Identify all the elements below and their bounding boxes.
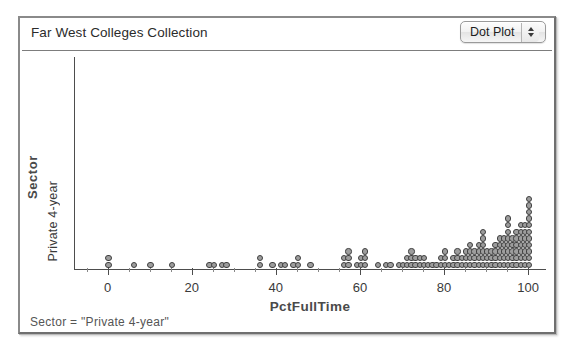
filter-status-text: Sector = "Private 4-year" <box>30 315 169 329</box>
data-point[interactable] <box>526 202 532 208</box>
x-axis-minor-tick <box>318 268 319 272</box>
data-point[interactable] <box>505 215 511 221</box>
x-axis-major-tick <box>192 268 193 275</box>
plot-area[interactable] <box>74 57 546 270</box>
x-axis-minor-tick <box>150 268 151 272</box>
x-axis-tick-labels: 020406080100 <box>74 280 546 298</box>
x-axis-major-tick <box>528 268 529 275</box>
x-axis-major-tick <box>360 268 361 275</box>
data-point[interactable] <box>467 242 473 248</box>
data-point[interactable] <box>345 255 351 261</box>
triangle-up-icon[interactable] <box>528 27 534 31</box>
x-axis-minor-tick <box>213 268 214 272</box>
data-point[interactable] <box>505 229 511 235</box>
data-point[interactable] <box>362 255 368 261</box>
x-axis-major-tick <box>444 268 445 275</box>
data-point[interactable] <box>454 248 460 254</box>
x-axis-minor-tick <box>486 268 487 272</box>
data-point[interactable] <box>526 255 532 261</box>
x-axis-minor-tick <box>297 268 298 272</box>
data-point[interactable] <box>442 255 448 261</box>
x-axis-ticks <box>74 268 546 276</box>
dot-layer <box>75 57 546 269</box>
plot-type-dropdown[interactable]: Dot Plot <box>460 21 546 43</box>
data-point[interactable] <box>526 222 532 228</box>
x-axis-minor-tick <box>171 268 172 272</box>
data-point[interactable] <box>526 242 532 248</box>
graph-panel: Sector Private 4-year 020406080100 PctFu… <box>22 50 552 330</box>
data-point[interactable] <box>505 222 511 228</box>
data-point[interactable] <box>526 196 532 202</box>
x-axis-tick-label: 80 <box>437 280 451 295</box>
x-axis-major-tick <box>108 268 109 275</box>
x-axis-tick-label: 100 <box>517 280 539 295</box>
x-axis-tick-label: 40 <box>269 280 283 295</box>
x-axis-minor-tick <box>423 268 424 272</box>
x-axis-minor-tick <box>402 268 403 272</box>
data-point[interactable] <box>362 248 368 254</box>
y-axis-title: Sector <box>25 155 40 199</box>
graph-window: Far West Colleges Collection Dot Plot Se… <box>18 16 556 334</box>
x-axis-minor-tick <box>255 268 256 272</box>
x-axis-minor-tick <box>507 268 508 272</box>
data-point[interactable] <box>526 248 532 254</box>
x-axis-minor-tick <box>234 268 235 272</box>
data-point[interactable] <box>345 248 351 254</box>
title-bar: Far West Colleges Collection Dot Plot <box>22 20 552 50</box>
triangle-down-icon[interactable] <box>528 33 534 37</box>
data-point[interactable] <box>526 229 532 235</box>
data-point[interactable] <box>295 255 301 261</box>
data-point[interactable] <box>408 248 414 254</box>
data-point[interactable] <box>526 209 532 215</box>
data-point[interactable] <box>421 255 427 261</box>
x-axis-tick-label: 0 <box>104 280 111 295</box>
x-axis-minor-tick <box>87 268 88 272</box>
x-axis-minor-tick <box>465 268 466 272</box>
x-axis-tick-label: 20 <box>185 280 199 295</box>
data-point[interactable] <box>526 235 532 241</box>
data-point[interactable] <box>480 235 486 241</box>
data-point[interactable] <box>480 242 486 248</box>
x-axis-minor-tick <box>381 268 382 272</box>
data-point[interactable] <box>526 215 532 221</box>
collection-title: Far West Colleges Collection <box>31 25 208 40</box>
data-point[interactable] <box>442 248 448 254</box>
plot-type-stepper[interactable] <box>521 23 539 42</box>
data-point[interactable] <box>105 255 111 261</box>
x-axis-title: PctFullTime <box>74 299 546 314</box>
x-axis-minor-tick <box>129 268 130 272</box>
y-axis-category-label: Private 4-year <box>46 181 60 262</box>
x-axis-major-tick <box>276 268 277 275</box>
x-axis-tick-label: 60 <box>353 280 367 295</box>
plot-type-label: Dot Plot <box>470 25 521 39</box>
x-axis-minor-tick <box>339 268 340 272</box>
data-point[interactable] <box>480 229 486 235</box>
data-point[interactable] <box>257 255 263 261</box>
